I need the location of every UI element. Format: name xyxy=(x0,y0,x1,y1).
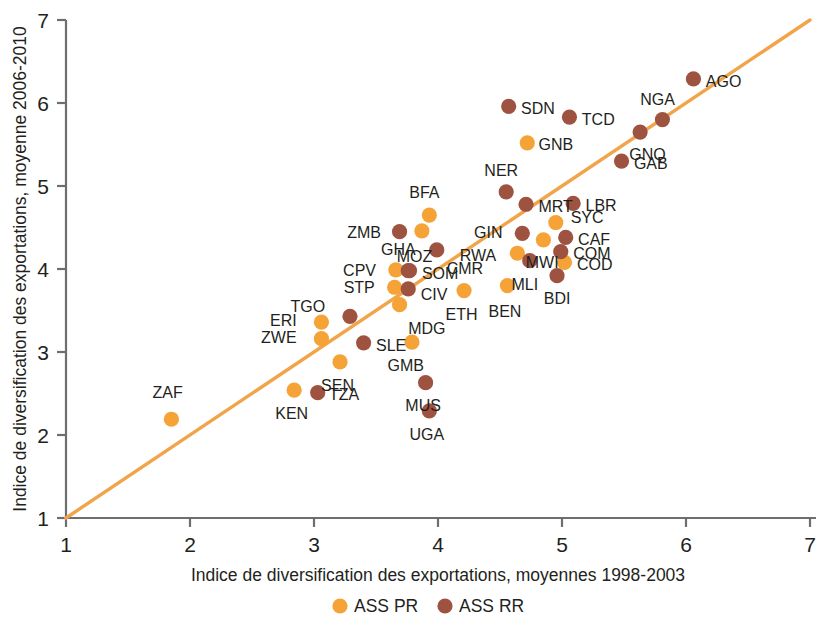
data-point-label: NER xyxy=(484,162,518,179)
data-point[interactable] xyxy=(401,281,416,296)
data-point-label: TCD xyxy=(582,111,615,128)
y-tick-label: 2 xyxy=(37,424,49,447)
y-tick-label: 3 xyxy=(37,341,49,364)
data-point-label: COM xyxy=(573,245,610,262)
data-point[interactable] xyxy=(387,280,402,295)
data-point-label: BFA xyxy=(409,184,440,201)
data-point-label: GMB xyxy=(388,357,424,374)
x-tick-label: 3 xyxy=(308,533,320,556)
data-point[interactable] xyxy=(456,283,471,298)
data-point-label: CPV xyxy=(343,262,376,279)
plot-area: 12345671234567ZAFKENERIZWESENGMBMDGSTPCP… xyxy=(10,9,816,616)
y-tick-label: 4 xyxy=(37,258,49,281)
data-point[interactable] xyxy=(501,99,516,114)
x-tick-label: 1 xyxy=(60,533,72,556)
data-point[interactable] xyxy=(392,224,407,239)
data-point-label: NGA xyxy=(640,91,675,108)
data-point-label: TZA xyxy=(329,386,360,403)
data-point-label: CMR xyxy=(447,260,483,277)
data-point[interactable] xyxy=(499,184,514,199)
data-point[interactable] xyxy=(518,197,533,212)
data-point-label: MUS xyxy=(405,397,441,414)
data-point[interactable] xyxy=(164,412,179,427)
data-point[interactable] xyxy=(520,135,535,150)
x-tick-label: 4 xyxy=(432,533,444,556)
data-point-label: GNQ xyxy=(629,146,665,163)
data-point-label: GHA xyxy=(381,241,416,258)
data-point[interactable] xyxy=(633,124,648,139)
data-point[interactable] xyxy=(614,154,629,169)
data-point-label: LBR xyxy=(586,197,617,214)
data-point-label: ETH xyxy=(446,306,478,323)
data-point-label: BDI xyxy=(544,290,571,307)
y-tick-label: 7 xyxy=(37,9,49,32)
x-tick-label: 2 xyxy=(184,533,196,556)
data-point[interactable] xyxy=(342,309,357,324)
data-point-label: GIN xyxy=(474,224,502,241)
data-point-label: MLI xyxy=(511,276,538,293)
chart-canvas: 12345671234567ZAFKENERIZWESENGMBMDGSTPCP… xyxy=(0,0,816,624)
data-point-label: SLE xyxy=(376,337,406,354)
legend-label: ASS RR xyxy=(459,596,524,616)
data-point[interactable] xyxy=(314,315,329,330)
x-axis-title: Indice de diversification des exportatio… xyxy=(191,565,685,585)
data-point-label: SDN xyxy=(521,100,555,117)
data-point[interactable] xyxy=(356,335,371,350)
data-point-label: UGA xyxy=(410,426,445,443)
data-point-label: MRT xyxy=(538,198,573,215)
data-point[interactable] xyxy=(414,223,429,238)
y-tick-label: 5 xyxy=(37,175,49,198)
data-point-label: KEN xyxy=(275,405,308,422)
y-tick-label: 6 xyxy=(37,92,49,115)
data-point[interactable] xyxy=(332,354,347,369)
data-point-label: ZMB xyxy=(347,224,381,241)
data-point[interactable] xyxy=(562,110,577,125)
x-tick-label: 5 xyxy=(556,533,568,556)
data-point[interactable] xyxy=(515,226,530,241)
data-point-label: STP xyxy=(344,279,375,296)
data-point-label: BEN xyxy=(489,303,522,320)
data-point-label: MDG xyxy=(408,320,445,337)
data-point[interactable] xyxy=(548,215,563,230)
data-point[interactable] xyxy=(418,375,433,390)
x-tick-label: 6 xyxy=(680,533,692,556)
data-point[interactable] xyxy=(686,71,701,86)
data-point[interactable] xyxy=(402,263,417,278)
data-point-label: ZWE xyxy=(261,329,297,346)
data-point[interactable] xyxy=(655,112,670,127)
legend-swatch xyxy=(437,598,452,613)
data-point[interactable] xyxy=(422,207,437,222)
scatter-chart: 12345671234567ZAFKENERIZWESENGMBMDGSTPCP… xyxy=(0,0,816,624)
data-point-label: GNB xyxy=(538,136,573,153)
data-point-label: TGO xyxy=(290,298,325,315)
data-point[interactable] xyxy=(536,232,551,247)
data-point[interactable] xyxy=(314,331,329,346)
y-axis-title: Indice de diversification des exportatio… xyxy=(10,26,30,512)
data-point-label: CIV xyxy=(421,286,448,303)
y-tick-label: 1 xyxy=(37,507,49,530)
data-point[interactable] xyxy=(558,230,573,245)
legend-swatch xyxy=(332,598,347,613)
legend-label: ASS PR xyxy=(354,596,418,616)
data-point-label: ZAF xyxy=(153,384,183,401)
data-point-label: AGO xyxy=(706,73,742,90)
x-tick-label: 7 xyxy=(804,533,816,556)
data-point[interactable] xyxy=(287,383,302,398)
data-point-label: MWI xyxy=(526,254,559,271)
data-point[interactable] xyxy=(392,297,407,312)
